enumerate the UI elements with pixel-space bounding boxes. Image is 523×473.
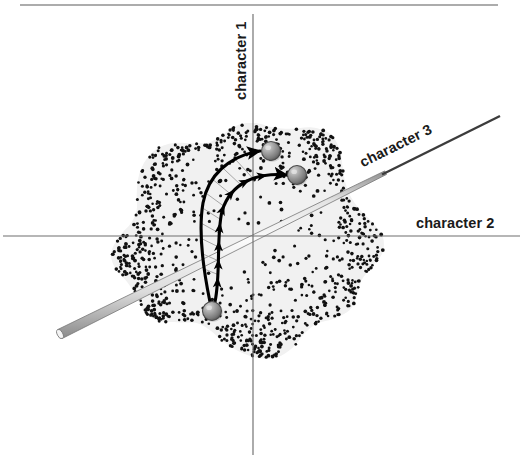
axis-label-character-1: character 1 [233, 22, 249, 101]
sphere-ancestor [203, 302, 222, 321]
sphere-descendant-lower [288, 166, 307, 185]
evolutionary-morphospace-figure: character 1 character 2 character 3 [0, 0, 523, 473]
figure-canvas: character 1 character 2 character 3 [0, 0, 523, 473]
sphere-descendant-upper [262, 142, 281, 161]
axis-label-character-2: character 2 [416, 215, 495, 231]
axis-label-character-3: character 3 [357, 121, 434, 170]
